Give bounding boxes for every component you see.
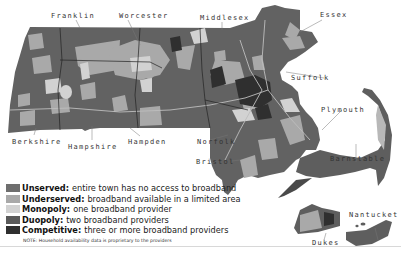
county-label-nantucket: Nantucket [349,211,399,219]
legend-item-duopoly: Duopoly: two broadband providers [6,215,256,226]
unserved-swatch [6,184,20,192]
legend-term: Monopoly: [22,204,70,214]
legend-desc: three or more broadband providers [84,225,228,235]
county-label-hampshire: Hampshire [68,143,118,151]
county-label-middlesex: Middlesex [200,14,250,22]
legend-desc: broadband available in a limited area [87,194,240,204]
county-label-essex: Essex [320,11,348,19]
mainland [8,5,320,195]
competitive-swatch [6,226,20,234]
legend-item-monopoly: Monopoly: one broadband provider [6,204,256,215]
monopoly-swatch [6,205,20,213]
county-label-suffolk: Suffolk [291,74,330,82]
bottom-divider [0,246,401,247]
duopoly-swatch [6,216,20,224]
county-label-barnstable: Barnstable [330,155,385,163]
legend-term: Unserved: [22,183,69,193]
legend-term: Competitive: [22,225,81,235]
legend-item-unserved: Unserved: entire town has no access to b… [6,183,256,194]
county-label-bristol: Bristol [196,158,235,166]
nantucket-island [346,220,392,246]
marthas-vineyard [294,204,340,234]
county-label-worcester: Worcester [119,12,169,20]
legend-item-underserved: Underserved: broadband available in a li… [6,194,256,205]
county-label-franklin: Franklin [51,12,95,20]
legend-item-competitive: Competitive: three or more broadband pro… [6,225,256,236]
county-label-plymouth: Plymouth [321,106,365,114]
underserved-swatch [6,195,20,203]
legend-note: NOTE: Household availability data is pro… [23,238,256,243]
county-label-norfolk: Norfolk [197,138,236,146]
legend-term: Underserved: [22,194,84,204]
legend: Unserved: entire town has no access to b… [6,183,256,243]
legend-desc: two broadband providers [66,215,169,225]
legend-desc: entire town has no access to broadband [72,183,236,193]
county-label-berkshire: Berkshire [12,138,62,146]
legend-desc: one broadband provider [73,204,172,214]
legend-term: Duopoly: [22,215,63,225]
county-label-hampden: Hampden [128,138,167,146]
